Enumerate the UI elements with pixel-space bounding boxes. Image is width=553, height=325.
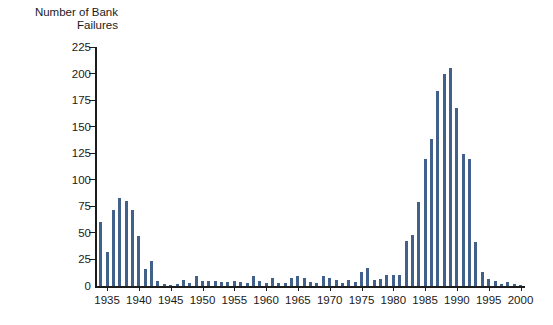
bar-1989 — [449, 68, 452, 286]
bar-1961 — [271, 278, 274, 286]
chart-title: Number of Bank Failures — [0, 6, 118, 32]
y-axis-label-75: 75 — [31, 200, 91, 212]
bar-1970 — [328, 278, 331, 286]
y-axis-label-225: 225 — [31, 41, 91, 53]
bar-1992 — [468, 159, 471, 286]
x-tick-1950 — [203, 286, 204, 291]
bar-1959 — [258, 281, 261, 286]
bar-1996 — [494, 281, 497, 286]
bar-1949 — [195, 276, 198, 286]
bar-1998 — [506, 282, 509, 286]
bar-1990 — [455, 108, 458, 286]
bank-failures-chart: Number of Bank Failures 0255075100125150… — [0, 0, 553, 325]
x-tick-1975 — [362, 286, 363, 291]
bar-1967 — [309, 282, 312, 286]
bar-1999 — [513, 284, 516, 286]
bar-1969 — [322, 276, 325, 286]
bar-1987 — [436, 91, 439, 286]
bar-1993 — [474, 242, 477, 286]
x-tick-1970 — [330, 286, 331, 291]
bar-1974 — [354, 282, 357, 286]
bar-1966 — [303, 278, 306, 286]
y-axis-label-25: 25 — [31, 253, 91, 265]
bar-1982 — [405, 241, 408, 286]
chart-title-line2: Failures — [0, 19, 118, 32]
bar-1951 — [207, 281, 210, 286]
bar-1994 — [481, 272, 484, 286]
bar-1972 — [341, 283, 344, 286]
bar-1962 — [277, 283, 280, 286]
bar-1978 — [379, 279, 382, 286]
y-axis-label-175: 175 — [31, 94, 91, 106]
y-axis-label-150: 150 — [31, 121, 91, 133]
y-axis-label-125: 125 — [31, 147, 91, 159]
bar-1944 — [163, 284, 166, 286]
bar-1939 — [131, 210, 134, 286]
bar-1968 — [315, 283, 318, 286]
plot-area: 0255075100125150175200225193519401945195… — [95, 47, 525, 288]
bar-1938 — [125, 201, 128, 286]
bar-1995 — [487, 279, 490, 286]
x-tick-1945 — [171, 286, 172, 291]
bar-1952 — [214, 281, 217, 286]
bar-1948 — [188, 283, 191, 286]
bar-1980 — [392, 275, 395, 286]
chart-title-line1: Number of Bank — [0, 6, 118, 19]
bar-1947 — [182, 280, 185, 286]
bar-1971 — [335, 280, 338, 286]
bar-1988 — [443, 74, 446, 286]
bar-1975 — [360, 272, 363, 286]
bar-1986 — [430, 139, 433, 286]
bar-1964 — [290, 278, 293, 286]
bar-1954 — [226, 282, 229, 286]
x-tick-1960 — [266, 286, 267, 291]
x-tick-1940 — [139, 286, 140, 291]
bar-1941 — [144, 269, 147, 286]
bar-1963 — [284, 283, 287, 286]
bar-1979 — [385, 275, 388, 286]
x-tick-1990 — [457, 286, 458, 291]
bar-1984 — [417, 202, 420, 286]
bar-1943 — [156, 281, 159, 286]
x-tick-1965 — [298, 286, 299, 291]
bar-1953 — [220, 282, 223, 286]
bar-1991 — [462, 154, 465, 286]
bar-1985 — [424, 159, 427, 286]
y-axis-label-50: 50 — [31, 227, 91, 239]
x-tick-2000 — [521, 286, 522, 291]
y-axis-label-0: 0 — [31, 280, 91, 292]
bar-1937 — [118, 198, 121, 286]
bar-1973 — [347, 280, 350, 286]
bar-1936 — [112, 210, 115, 286]
bar-1983 — [411, 235, 414, 286]
x-axis-label-2000: 2000 — [501, 294, 541, 306]
bar-1940 — [137, 236, 140, 286]
bar-1946 — [176, 284, 179, 286]
bar-1965 — [296, 276, 299, 286]
bar-1935 — [106, 252, 109, 286]
bar-1976 — [366, 268, 369, 286]
x-tick-1935 — [107, 286, 108, 291]
bar-1957 — [246, 283, 249, 286]
bar-1977 — [373, 280, 376, 286]
bar-1997 — [500, 284, 503, 286]
x-tick-1985 — [425, 286, 426, 291]
x-tick-1980 — [393, 286, 394, 291]
x-tick-1995 — [489, 286, 490, 291]
bar-1981 — [398, 275, 401, 286]
bar-1942 — [150, 261, 153, 286]
x-tick-1955 — [234, 286, 235, 291]
y-axis-label-200: 200 — [31, 68, 91, 80]
bar-1934 — [99, 222, 102, 286]
bar-1956 — [239, 282, 242, 286]
y-axis-label-100: 100 — [31, 174, 91, 186]
bar-1958 — [252, 276, 255, 286]
